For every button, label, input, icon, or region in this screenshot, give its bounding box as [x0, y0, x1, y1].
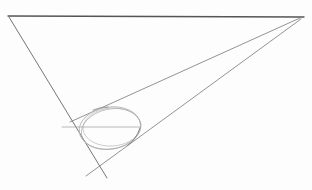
- ellipse-sketch: [76, 103, 144, 155]
- sketch-canvas: [0, 0, 312, 190]
- horizon-line: [8, 16, 304, 17]
- upper-perspective-line: [70, 18, 300, 122]
- ellipse-stroke: [77, 103, 144, 155]
- sketch-svg: [0, 0, 312, 190]
- left-edge-line: [9, 17, 107, 178]
- ellipse-stroke: [76, 103, 143, 153]
- lower-perspective-line: [86, 19, 301, 176]
